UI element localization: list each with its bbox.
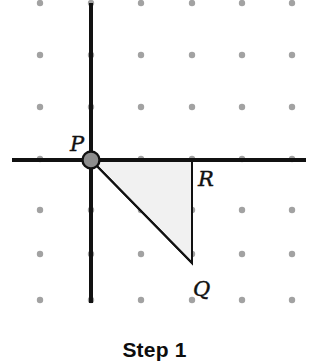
grid-dot <box>37 0 43 6</box>
grid-dot <box>289 207 295 213</box>
grid-dot <box>189 104 195 110</box>
grid-dot <box>138 52 144 58</box>
grid-dot <box>239 0 245 6</box>
grid-dot <box>239 52 245 58</box>
grid-dot <box>37 207 43 213</box>
vertex-label-p: P <box>69 132 85 156</box>
grid-dot <box>289 52 295 58</box>
grid-dot <box>37 297 43 303</box>
grid-dot <box>189 52 195 58</box>
point-p-marker <box>83 152 100 169</box>
grid-dot <box>289 251 295 257</box>
geometry-diagram: P R Q <box>0 0 309 362</box>
grid-dot <box>138 297 144 303</box>
grid-dot <box>37 52 43 58</box>
grid-dot <box>239 297 245 303</box>
figure-root: P R Q Step 1 <box>0 0 309 362</box>
grid-dot <box>239 251 245 257</box>
grid-dot <box>138 104 144 110</box>
grid-dot <box>138 0 144 6</box>
vertex-label-r: R <box>197 167 214 191</box>
grid-dot <box>37 251 43 257</box>
grid-dot <box>289 104 295 110</box>
grid-dot <box>239 207 245 213</box>
vertex-label-q: Q <box>193 277 210 301</box>
grid-dot <box>239 104 245 110</box>
grid-dot <box>37 104 43 110</box>
grid-dot <box>189 0 195 6</box>
grid-dot <box>289 297 295 303</box>
figure-caption: Step 1 <box>0 338 309 362</box>
grid-dot <box>289 0 295 6</box>
grid-dot <box>138 251 144 257</box>
